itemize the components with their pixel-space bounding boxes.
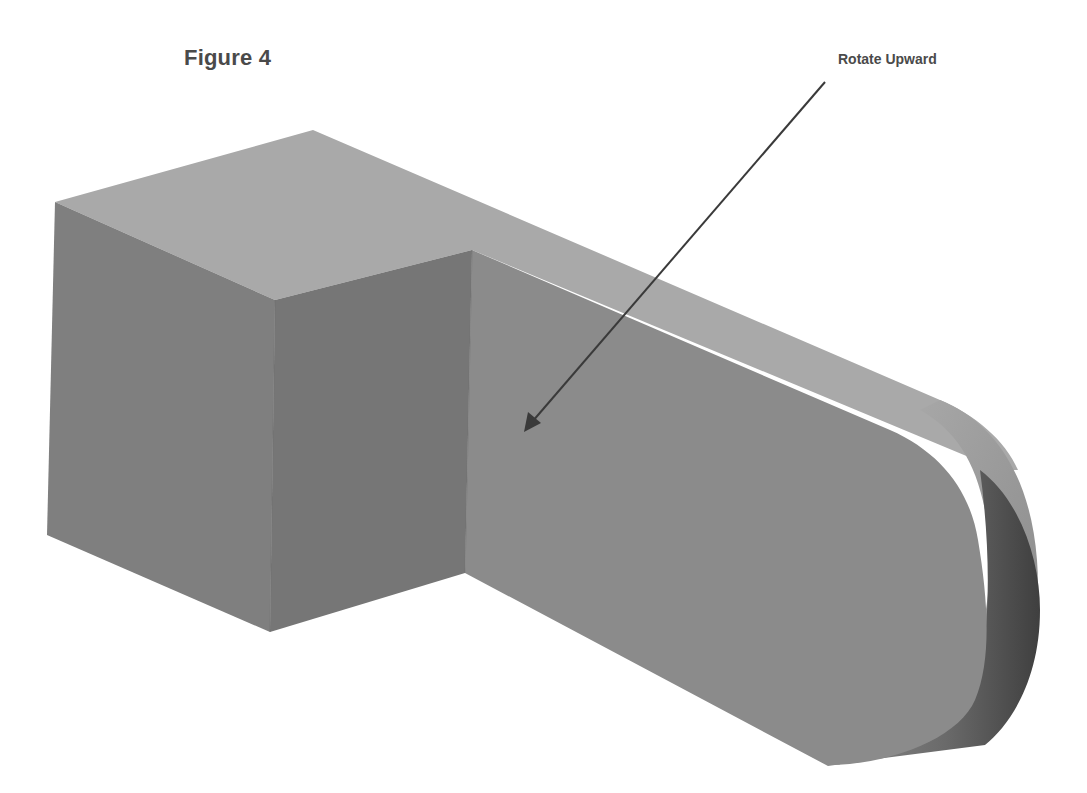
block-front-face (270, 250, 472, 632)
figure-title: Figure 4 (184, 45, 271, 71)
callout-label: Rotate Upward (838, 51, 937, 67)
3d-part-drawing (0, 0, 1087, 793)
